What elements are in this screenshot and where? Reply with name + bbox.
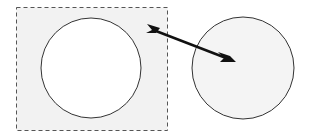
left-circle[interactable] (41, 18, 141, 118)
right-circle[interactable] (192, 17, 294, 119)
diagram-canvas (0, 0, 309, 140)
